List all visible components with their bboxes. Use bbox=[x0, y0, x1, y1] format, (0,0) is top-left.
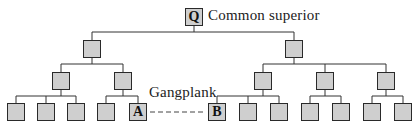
node-leaf-9 bbox=[301, 103, 319, 121]
node-leaf-10 bbox=[332, 103, 350, 121]
node-leaf-12 bbox=[394, 103, 412, 121]
node-b: B bbox=[208, 103, 226, 121]
node-leaf-7 bbox=[239, 103, 257, 121]
node-leaf-11 bbox=[363, 103, 381, 121]
node-leaf-2 bbox=[37, 103, 55, 121]
node-q-common-superior: Q bbox=[185, 8, 203, 26]
node-l2-3 bbox=[254, 72, 272, 90]
node-l1-left bbox=[83, 40, 101, 58]
node-l2-2 bbox=[114, 72, 132, 90]
node-l2-4 bbox=[316, 72, 334, 90]
node-leaf-3 bbox=[67, 103, 85, 121]
common-superior-label: Common superior bbox=[208, 7, 320, 24]
node-a: A bbox=[129, 103, 147, 121]
node-leaf-1 bbox=[7, 103, 25, 121]
node-l2-1 bbox=[52, 72, 70, 90]
gangplank-label: Gangplank bbox=[149, 84, 217, 101]
node-leaf-8 bbox=[270, 103, 288, 121]
node-l2-5 bbox=[377, 72, 395, 90]
node-l1-right bbox=[285, 40, 303, 58]
node-leaf-4 bbox=[97, 103, 115, 121]
